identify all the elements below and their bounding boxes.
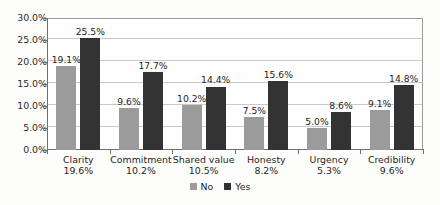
bar-value-label: 8.6% (329, 101, 352, 110)
y-axis-tick-label: 30.0% (3, 13, 47, 22)
bar-yes (143, 72, 163, 150)
category-name: Clarity (63, 154, 94, 165)
legend-swatch-icon (190, 183, 197, 190)
category-total: 9.6% (368, 165, 416, 176)
x-axis-tick-mark (423, 149, 424, 154)
bar-value-label: 9.1% (368, 99, 391, 108)
y-axis: 0.0%5.0%10.0%15.0%20.0%25.0%30.0% (0, 0, 47, 205)
bar-yes (206, 87, 226, 150)
bar-value-label: 14.4% (201, 75, 230, 84)
x-axis-tick-mark (47, 149, 48, 154)
bar-no (370, 110, 390, 150)
bar-no (119, 108, 139, 150)
y-axis-tick-label: 0.0% (3, 145, 47, 154)
bar-series-layer: 19.1%25.5%9.6%17.7%10.2%14.4%7.5%15.6%5.… (47, 18, 423, 150)
bar-yes (80, 38, 100, 150)
x-axis-category-label: Clarity19.6% (63, 154, 94, 177)
x-axis-category-label: Credibility9.6% (368, 154, 416, 177)
category-name: Urgency (310, 154, 349, 165)
legend-label: Yes (235, 182, 250, 191)
bar-value-label: 25.5% (76, 27, 105, 36)
y-axis-tick-label: 10.0% (3, 101, 47, 110)
x-axis-category-label: Honesty8.2% (247, 154, 286, 177)
category-total: 19.6% (63, 165, 94, 176)
x-axis-tick-mark (360, 149, 361, 154)
y-axis-tick-label: 5.0% (3, 123, 47, 132)
bar-yes (268, 81, 288, 150)
category-name: Credibility (368, 154, 416, 165)
y-axis-tick-label: 15.0% (3, 79, 47, 88)
bar-value-label: 17.7% (138, 61, 167, 70)
legend-item-yes[interactable]: Yes (224, 182, 250, 191)
category-total: 10.2% (110, 165, 171, 176)
y-axis-tick-label: 20.0% (3, 57, 47, 66)
bar-value-label: 15.6% (264, 70, 293, 79)
category-total: 5.3% (310, 165, 349, 176)
bar-yes (331, 112, 351, 150)
bar-no (56, 66, 76, 150)
bar-value-label: 7.5% (243, 106, 266, 115)
category-total: 10.5% (173, 165, 235, 176)
bar-no (307, 128, 327, 150)
category-name: Commitment (110, 154, 171, 165)
bar-yes (394, 85, 414, 150)
category-name: Honesty (247, 154, 286, 165)
category-total: 8.2% (247, 165, 286, 176)
x-axis-category-label: Urgency5.3% (310, 154, 349, 177)
chart-legend: NoYes (0, 182, 440, 191)
bar-value-label: 14.8% (389, 74, 418, 83)
bar-value-label: 19.1% (52, 55, 81, 64)
bar-no (244, 117, 264, 150)
legend-swatch-icon (224, 183, 231, 190)
x-axis-category-label: Commitment10.2% (110, 154, 171, 177)
legend-label: No (201, 182, 214, 191)
bar-value-label: 10.2% (177, 94, 206, 103)
bar-value-label: 5.0% (305, 117, 328, 126)
x-axis-tick-mark (235, 149, 236, 154)
x-axis-category-label: Shared value10.5% (173, 154, 235, 177)
bar-value-label: 9.6% (117, 97, 140, 106)
y-axis-tick-label: 25.0% (3, 35, 47, 44)
legend-item-no[interactable]: No (190, 182, 214, 191)
x-axis-tick-mark (298, 149, 299, 154)
category-name: Shared value (173, 154, 235, 165)
bar-chart: 0.0%5.0%10.0%15.0%20.0%25.0%30.0% 19.1%2… (0, 0, 440, 205)
bar-no (182, 105, 202, 150)
